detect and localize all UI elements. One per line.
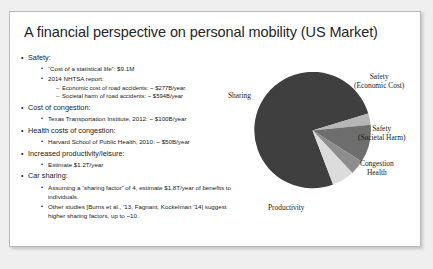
bullet-label: Health costs of congestion: [28, 126, 116, 135]
bullet-cost-statistical-life: “Cost of a statistical life”: $9.1M [41, 64, 235, 73]
bullet-label: Societal harm of road accidents: ~ $594B… [62, 93, 183, 99]
bullet-sharing-factor: Assuming a “sharing factor” of 4, estima… [41, 183, 235, 202]
bullet-label: Car sharing: [28, 171, 68, 180]
bullet-list-level2: “Cost of a statistical life”: $9.1M 2014… [28, 64, 235, 101]
slide-title: A financial perspective on personal mobi… [24, 24, 378, 40]
bullet-list-level1: Safety: “Cost of a statistical life”: $9… [20, 53, 235, 221]
bullet-list-level2: Estimate $1.2T/year [28, 160, 235, 169]
bullet-list-level2: Texas Transportation Institute, 2012: ~ … [28, 114, 235, 123]
bullet-harvard-school-public-health: Harvard School of Public Health, 2010: ~… [41, 137, 235, 146]
bullet-societal-harm: Societal harm of road accidents: ~ $594B… [56, 92, 235, 101]
pie-label-text: Sharing [228, 91, 251, 100]
bullet-health-costs-of-congestion: Health costs of congestion: Harvard Scho… [20, 126, 235, 147]
pie-label-congestion-health: Congestion Health [360, 159, 394, 177]
bullet-safety: Safety: “Cost of a statistical life”: $9… [20, 53, 235, 101]
bullet-label: 2014 NHTSA report: [48, 75, 104, 82]
bullet-label: Cost of congestion: [28, 103, 90, 112]
bullet-cost-of-congestion: Cost of congestion: Texas Transportation… [20, 103, 235, 124]
bullet-label: Safety: [28, 53, 51, 62]
pie-label-text: Productivity [268, 203, 305, 212]
bullet-list-level3: Economic cost of road accidents: ~ $277B… [48, 84, 235, 101]
bullet-label: Economic cost of road accidents: ~ $277B… [62, 85, 187, 91]
bullet-content: Safety: “Cost of a statistical life”: $9… [20, 53, 235, 223]
bullet-list-level2: Harvard School of Public Health, 2010: ~… [28, 137, 235, 146]
bullet-label: Other studies [Burns et al., ’13, Fagnan… [48, 203, 227, 219]
bullet-nhtsa-report: 2014 NHTSA report: Economic cost of road… [41, 74, 235, 101]
slide: A financial perspective on personal mobi… [9, 11, 421, 247]
bullet-label: “Cost of a statistical life”: $9.1M [48, 65, 134, 72]
pie-label-text-line1: Safety [354, 72, 404, 81]
pie-label-productivity: Productivity [268, 203, 305, 212]
bullet-label: Assuming a “sharing factor” of 4, estima… [48, 184, 231, 200]
pie-label-sharing: Sharing [228, 91, 251, 100]
bullet-label: Estimate $1.2T/year [48, 161, 103, 168]
bullet-label: Harvard School of Public Health, 2010: ~… [48, 138, 190, 145]
pie-chart: Sharing Safety (Economic Cost) Safety (S… [226, 48, 421, 244]
pie-label-text-line1: Safety [358, 124, 405, 133]
pie-label-text-line2: (Economic Cost) [354, 81, 404, 90]
bullet-other-studies: Other studies [Burns et al., ’13, Fagnan… [41, 202, 235, 221]
bullet-label: Texas Transportation Institute, 2012: ~ … [48, 115, 186, 122]
bullet-estimate-productivity: Estimate $1.2T/year [41, 160, 235, 169]
page-background: A financial perspective on personal mobi… [0, 0, 433, 269]
pie-label-text-line2: (Societal Harm) [358, 133, 405, 142]
pie-label-text-line1: Congestion [360, 159, 394, 168]
pie-label-safety-economic: Safety (Economic Cost) [354, 72, 404, 90]
bullet-list-level2: Assuming a “sharing factor” of 4, estima… [28, 183, 235, 221]
bullet-economic-cost: Economic cost of road accidents: ~ $277B… [56, 84, 235, 93]
pie-label-text-line2: Health [360, 168, 394, 177]
bullet-increased-productivity: Increased productivity/leisure: Estimate… [20, 149, 235, 170]
bullet-label: Increased productivity/leisure: [28, 149, 125, 158]
pie-label-safety-societal: Safety (Societal Harm) [358, 124, 405, 142]
bullet-texas-transportation-institute: Texas Transportation Institute, 2012: ~ … [41, 114, 235, 123]
bullet-car-sharing: Car sharing: Assuming a “sharing factor”… [20, 171, 235, 221]
